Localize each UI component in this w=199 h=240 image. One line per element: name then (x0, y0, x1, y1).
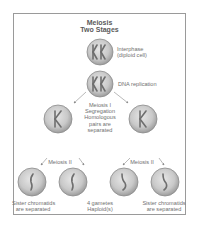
dna-replication-cell (87, 71, 113, 97)
interphase-cell (87, 39, 113, 65)
gamete-cell-4 (151, 168, 179, 196)
meiosis-1-right-cell (129, 105, 157, 133)
meiosis-1-left-cell (44, 105, 72, 133)
gamete-cell-3 (110, 168, 138, 196)
gamete-cell-2 (59, 168, 87, 196)
meiosis-2-left-label: Meiosis II (42, 159, 78, 165)
interphase-label-line2: (diploid cell) (117, 52, 147, 58)
dna-replication-label: DNA replication (118, 81, 157, 87)
bottom-center-label-line2: Haploid(s) (80, 206, 120, 212)
bottom-center-label: 4 gametes Haploid(s) (80, 200, 120, 212)
meiosis-1-label: Meiosis I Segregation Homologous pairs a… (83, 102, 117, 133)
bottom-left-label-line2: are separated (12, 206, 54, 212)
arrow-icon (79, 158, 84, 165)
meiosis-2-right-label: Meiosis II (124, 159, 160, 165)
interphase-label: Interphase (diploid cell) (117, 46, 147, 58)
meiosis-1-label-line3: Homologous (83, 114, 117, 120)
bottom-right-label-line2: are separated (142, 206, 186, 212)
gamete-cell-1 (18, 168, 46, 196)
bottom-left-label: Sister chromatids are separated (12, 200, 54, 212)
meiosis-1-label-line5: separated (83, 127, 117, 133)
bottom-right-label: Sister chromatids are separated (142, 200, 186, 212)
